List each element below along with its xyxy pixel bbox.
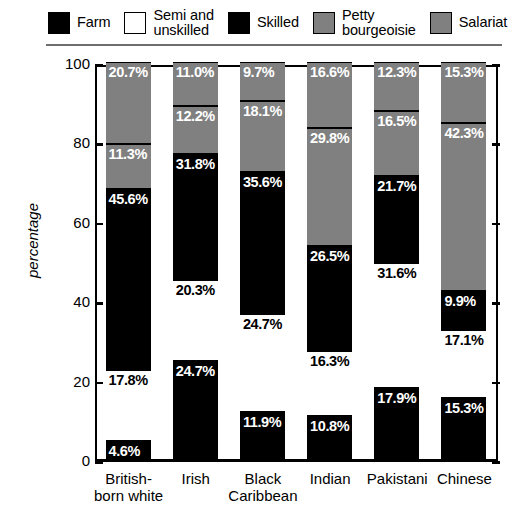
bar-column[interactable]: 10.8%16.3%26.5%29.8%16.6% xyxy=(307,67,352,459)
bar-segment-value-label: 31.8% xyxy=(176,156,215,172)
bar-segment[interactable]: 20.3% xyxy=(173,280,218,361)
bar-segment[interactable]: 42.3% xyxy=(441,123,486,291)
plot-area: 4.6%17.8%45.6%11.3%20.7%24.7%20.3%31.8%1… xyxy=(95,65,498,462)
bar-segment[interactable]: 16.6% xyxy=(307,62,352,128)
bar-segment[interactable]: 31.6% xyxy=(374,263,419,388)
bar-segment[interactable]: 11.0% xyxy=(173,62,218,106)
bar-segment[interactable]: 29.8% xyxy=(307,128,352,246)
bar-segment[interactable]: 10.8% xyxy=(307,416,352,459)
bar-column[interactable]: 15.3%17.1%9.9%42.3%15.3% xyxy=(441,67,486,459)
bar-segment[interactable]: 17.8% xyxy=(106,370,151,441)
bar-segment-value-label: 4.6% xyxy=(109,443,140,459)
bar-segment-value-label: 15.3% xyxy=(444,64,483,80)
bar-segment[interactable]: 31.8% xyxy=(173,154,218,280)
bar-segment-value-label: 35.6% xyxy=(243,174,282,190)
bar-segment-value-label: 15.3% xyxy=(444,400,483,416)
bar-segment[interactable]: 12.2% xyxy=(173,106,218,154)
bar-segment-value-label: 10.8% xyxy=(310,418,349,434)
bar-segment[interactable]: 12.3% xyxy=(374,62,419,111)
bar-segment-value-label: 24.7% xyxy=(176,363,215,379)
y-axis-tick-label: 60 xyxy=(50,214,90,231)
y-axis-tick-label: 20 xyxy=(50,373,90,390)
bar-segment[interactable]: 20.7% xyxy=(106,62,151,144)
bar-segment[interactable]: 16.5% xyxy=(374,111,419,177)
bar-segment-value-label: 11.3% xyxy=(109,146,147,162)
bar-segment-value-label: 16.5% xyxy=(377,113,416,129)
bar-segment[interactable]: 21.7% xyxy=(374,176,419,262)
bar-segment-value-label: 20.7% xyxy=(109,64,148,80)
x-axis-category-label: Chinese xyxy=(414,470,514,487)
bar-segment[interactable]: 9.9% xyxy=(441,291,486,330)
bar-segment[interactable]: 26.5% xyxy=(307,246,352,351)
y-axis-title: percentage xyxy=(24,181,41,301)
stacked-bar-chart: percentage 020406080100 4.6%17.8%45.6%11… xyxy=(0,0,530,513)
y-axis-tick-label: 0 xyxy=(50,452,90,469)
bar-segment-value-label: 9.9% xyxy=(444,293,475,309)
bar-segment[interactable]: 15.3% xyxy=(441,398,486,459)
bar-segment-value-label: 17.1% xyxy=(444,332,483,348)
y-axis-tick-label: 100 xyxy=(50,55,90,72)
bar-segment-value-label: 12.3% xyxy=(377,64,416,80)
bar-column[interactable]: 24.7%20.3%31.8%12.2%11.0% xyxy=(173,67,218,459)
bar-segment-value-label: 18.1% xyxy=(243,103,282,119)
bar-segment-value-label: 17.8% xyxy=(109,372,148,388)
bar-segment[interactable]: 16.3% xyxy=(307,351,352,416)
bar-segment-value-label: 26.5% xyxy=(310,248,349,264)
bar-segment-value-label: 21.7% xyxy=(377,178,416,194)
bar-segment[interactable]: 17.1% xyxy=(441,330,486,398)
bar-segment-value-label: 45.6% xyxy=(109,191,148,207)
bar-segment-value-label: 16.6% xyxy=(310,64,349,80)
bar-segment-value-label: 20.3% xyxy=(176,282,215,298)
bar-segment-value-label: 42.3% xyxy=(444,125,483,141)
bar-segment-value-label: 11.0% xyxy=(176,64,214,80)
bar-column[interactable]: 11.9%24.7%35.6%18.1%9.7% xyxy=(240,67,285,459)
bar-segment[interactable]: 24.7% xyxy=(240,314,285,412)
bar-segment[interactable]: 11.3% xyxy=(106,144,151,189)
bar-column[interactable]: 4.6%17.8%45.6%11.3%20.7% xyxy=(106,67,151,459)
y-axis-tick-label: 40 xyxy=(50,293,90,310)
bar-segment[interactable]: 15.3% xyxy=(441,62,486,123)
bar-segment-value-label: 16.3% xyxy=(310,353,349,369)
y-axis-tick-label: 80 xyxy=(50,134,90,151)
bar-segment[interactable]: 11.9% xyxy=(240,412,285,459)
bar-segment-value-label: 12.2% xyxy=(176,108,215,124)
bar-segment-value-label: 29.8% xyxy=(310,130,349,146)
bar-segment[interactable]: 9.7% xyxy=(240,62,285,101)
bar-segment-value-label: 24.7% xyxy=(243,316,282,332)
bar-segment[interactable]: 4.6% xyxy=(106,441,151,459)
bar-segment-value-label: 11.9% xyxy=(243,414,281,430)
bar-column[interactable]: 17.9%31.6%21.7%16.5%12.3% xyxy=(374,67,419,459)
bar-segment-value-label: 9.7% xyxy=(243,64,274,80)
bar-segment-value-label: 31.6% xyxy=(377,265,416,281)
bar-segment[interactable]: 17.9% xyxy=(374,388,419,459)
bar-segment[interactable]: 24.7% xyxy=(173,361,218,459)
bar-segment[interactable]: 35.6% xyxy=(240,172,285,313)
bar-segment[interactable]: 45.6% xyxy=(106,189,151,370)
bar-segment-value-label: 17.9% xyxy=(377,390,416,406)
bar-segment[interactable]: 18.1% xyxy=(240,101,285,173)
